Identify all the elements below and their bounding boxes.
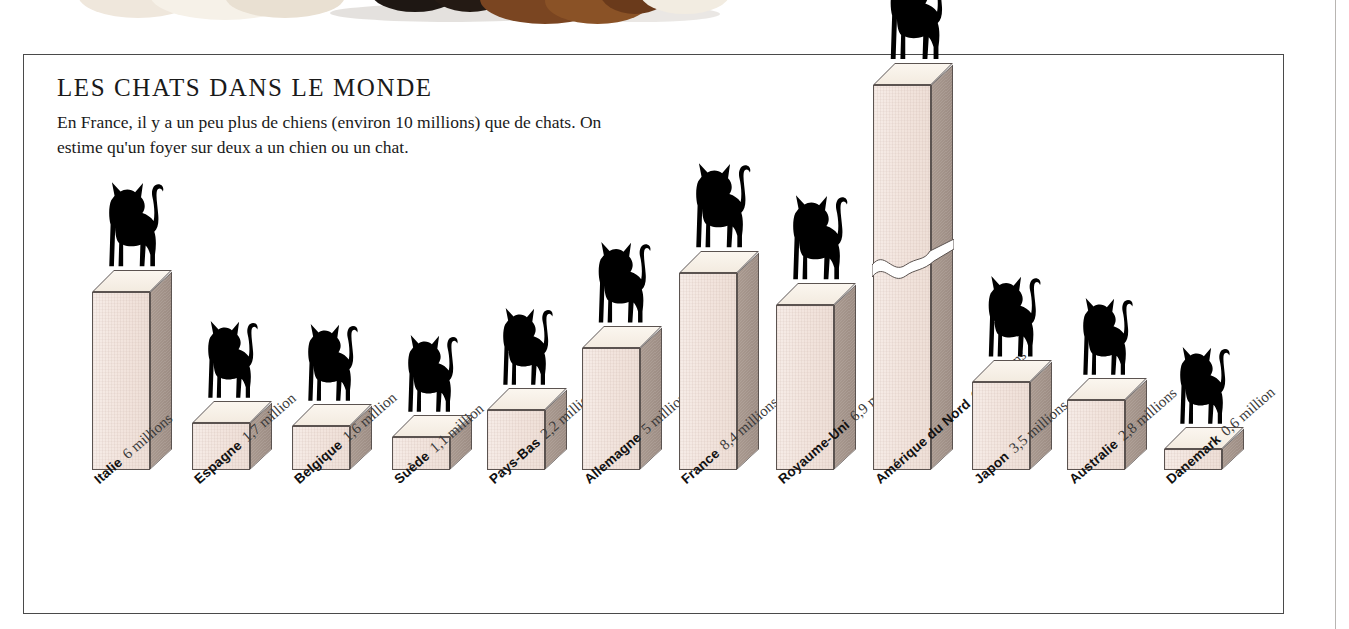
cat-silhouette-icon <box>1170 345 1230 429</box>
cropped-cat-photo <box>0 0 1349 24</box>
cat-silhouette-icon <box>198 319 258 403</box>
cat-silhouette-icon <box>879 0 948 65</box>
page-edge-rule <box>1335 0 1336 629</box>
cat-silhouette-icon <box>298 322 358 406</box>
cat-silhouette-icon <box>782 193 848 285</box>
infographic-page: LES CHATS DANS LE MONDE En France, il y … <box>0 0 1349 629</box>
cat-silhouette-icon <box>98 180 164 272</box>
chart-frame: LES CHATS DANS LE MONDE En France, il y … <box>23 54 1284 614</box>
cat-silhouette-icon <box>398 333 458 417</box>
bar-front-face <box>873 85 931 470</box>
cat-silhouette-icon <box>588 240 651 328</box>
cat-silhouette-icon <box>978 274 1041 362</box>
bar-side-face <box>640 327 662 470</box>
cat-silhouette-icon <box>1073 296 1133 380</box>
cat-silhouette-icon <box>685 161 751 253</box>
bar-group <box>873 0 953 470</box>
cat-silhouette-icon <box>493 306 553 390</box>
bar-am-rique-du-nord[interactable] <box>873 63 953 470</box>
bar-chart-plot: Italie6 millionsEspagne1,7 millionBelgiq… <box>24 55 1285 615</box>
